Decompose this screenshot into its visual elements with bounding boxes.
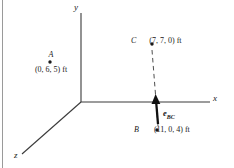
unit-vector-subscript: BC (167, 114, 175, 120)
unit-vector-bc-label: eBC (163, 108, 175, 120)
z-axis-label: z (14, 150, 18, 160)
point-b-coords: (11, 0, 4) ft (154, 125, 190, 134)
x-axis-label: x (213, 93, 217, 103)
point-a-label: A (23, 50, 79, 59)
point-c-name: C (131, 36, 136, 45)
point-a-name: A (23, 50, 79, 59)
point-b-name: B (134, 125, 139, 134)
point-b-label: B (11, 0, 4) ft (134, 126, 190, 134)
vector-geometry-figure: y x z A (0, 6, 5) ft C (7, 7, 0) ft B (1… (0, 0, 234, 168)
point-c-coords: (7, 7, 0) ft (149, 36, 181, 45)
axes-and-vectors-svg (0, 0, 234, 168)
point-a-dot (48, 60, 51, 63)
z-axis-line (22, 102, 81, 154)
point-c-label: C (7, 7, 0) ft (131, 37, 182, 45)
unit-vector-bc-arrowhead (152, 94, 161, 104)
point-a-coords: (0, 6, 5) ft (23, 66, 79, 74)
y-axis-label: y (74, 2, 78, 12)
